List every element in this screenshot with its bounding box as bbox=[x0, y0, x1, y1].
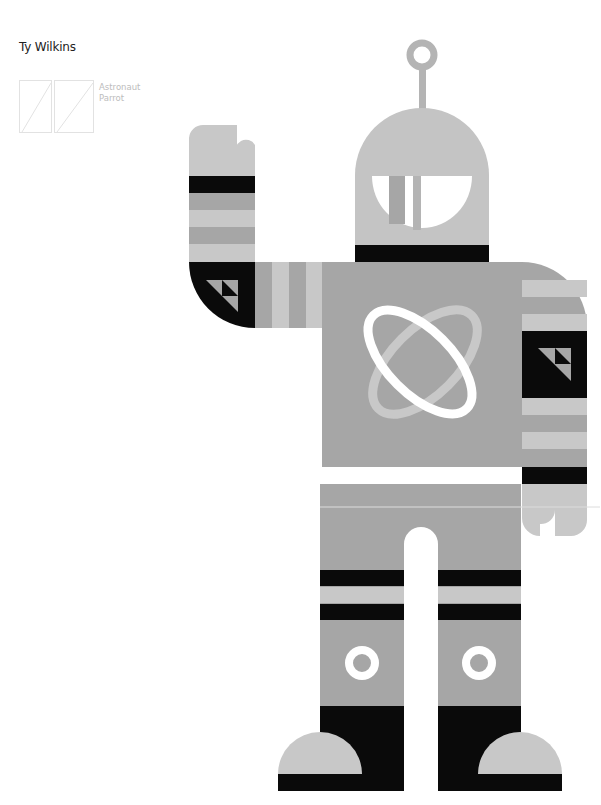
belt-gap bbox=[322, 467, 522, 484]
astronaut-illustration bbox=[0, 0, 601, 805]
right-arm bbox=[522, 280, 587, 536]
antenna bbox=[410, 43, 434, 110]
left-arm bbox=[189, 125, 322, 328]
helmet bbox=[355, 108, 489, 262]
boots bbox=[278, 706, 562, 791]
